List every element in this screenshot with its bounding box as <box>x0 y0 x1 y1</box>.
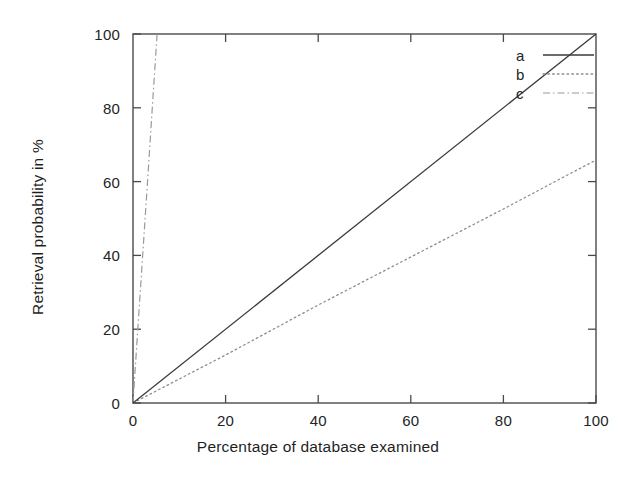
x-axis-ticks <box>133 395 596 403</box>
legend: a b c <box>516 46 598 103</box>
x-tick-label-0: 0 <box>129 413 138 428</box>
x-tick-label-40: 40 <box>310 413 327 428</box>
y-tick-label-40: 40 <box>68 248 120 263</box>
series-line-c <box>133 34 157 403</box>
legend-label-b: b <box>516 65 524 84</box>
series-line-b <box>133 161 594 403</box>
x-tick-label-60: 60 <box>402 413 419 428</box>
legend-item-b: b <box>516 65 598 84</box>
y-tick-label-60: 60 <box>68 175 120 190</box>
y-tick-label-0: 0 <box>68 396 120 411</box>
y-axis-ticks <box>133 34 141 403</box>
y-tick-label-80: 80 <box>68 101 120 116</box>
legend-label-c: c <box>516 84 524 103</box>
x-tick-label-100: 100 <box>583 413 609 428</box>
x-tick-label-20: 20 <box>217 413 234 428</box>
legend-item-c: c <box>516 84 598 103</box>
y-axis-ticks-right <box>588 108 596 403</box>
y-tick-label-20: 20 <box>68 322 120 337</box>
legend-label-a: a <box>516 46 524 65</box>
y-axis-title: Retrieval probability in % <box>29 97 47 357</box>
x-axis-title: Percentage of database examined <box>0 438 636 456</box>
x-tick-label-80: 80 <box>495 413 512 428</box>
y-tick-label-100: 100 <box>68 27 120 42</box>
legend-item-a: a <box>516 46 598 65</box>
x-axis-ticks-top <box>226 34 504 42</box>
chart-page: 0 20 40 60 80 100 0 20 40 60 80 100 Perc… <box>0 0 636 477</box>
figure-canvas: 0 20 40 60 80 100 0 20 40 60 80 100 Perc… <box>0 0 636 477</box>
